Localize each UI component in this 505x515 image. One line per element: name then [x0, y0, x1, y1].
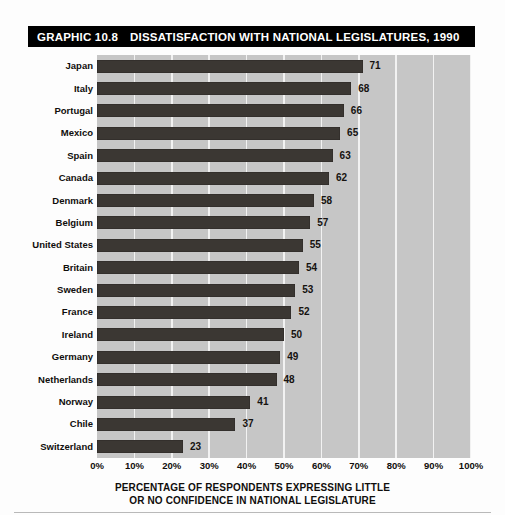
bar-japan [97, 60, 363, 73]
plot-wrapper: 716866656362585755545352504948413723 [97, 55, 471, 458]
bar-value-label: 49 [287, 352, 298, 362]
bar-portugal [97, 104, 344, 117]
chart-caption: PERCENTAGE OF RESPONDENTS EXPRESSING LIT… [0, 481, 505, 507]
bar-row [97, 104, 471, 117]
bar-canada [97, 172, 329, 185]
bar-united-states [97, 239, 303, 252]
category-label-switzerland: Switzerland [0, 442, 93, 452]
bar-value-label: 55 [310, 240, 321, 250]
x-tick-label: 80% [387, 461, 406, 471]
bar-value-label: 53 [302, 285, 313, 295]
chart-figure: GRAPHIC 10.8 DISSATISFACTION WITH NATION… [0, 0, 505, 515]
bar-row [97, 261, 471, 274]
bar-row [97, 194, 471, 207]
category-label-mexico: Mexico [0, 128, 93, 138]
bar-sweden [97, 284, 295, 297]
category-label-united-states: United States [0, 240, 93, 250]
graphic-number: GRAPHIC 10.8 [37, 31, 118, 43]
bar-row [97, 440, 471, 453]
category-label-sweden: Sweden [0, 285, 93, 295]
x-tick-label: 20% [162, 461, 181, 471]
bar-spain [97, 149, 333, 162]
caption-line-2: OR NO CONFIDENCE IN NATIONAL LEGISLATURE [0, 494, 505, 507]
bar-row [97, 284, 471, 297]
category-label-netherlands: Netherlands [0, 375, 93, 385]
bar-value-label: 65 [347, 128, 358, 138]
bar-row [97, 239, 471, 252]
bar-germany [97, 351, 280, 364]
bar-row [97, 328, 471, 341]
x-tick-label: 100% [459, 461, 483, 471]
bottom-rule [14, 512, 491, 513]
bar-row [97, 216, 471, 229]
category-label-italy: Italy [0, 84, 93, 94]
bar-value-label: 63 [340, 151, 351, 161]
category-label-norway: Norway [0, 397, 93, 407]
x-tick-label: 60% [312, 461, 331, 471]
bar-row [97, 418, 471, 431]
bar-ireland [97, 328, 284, 341]
bar-value-label: 48 [284, 375, 295, 385]
bar-value-label: 37 [242, 419, 253, 429]
bar-value-label: 71 [370, 61, 381, 71]
bar-value-label: 66 [351, 106, 362, 116]
bar-belgium [97, 216, 310, 229]
bar-mexico [97, 127, 340, 140]
bar-value-label: 23 [190, 442, 201, 452]
bar-value-label: 50 [291, 330, 302, 340]
bar-value-label: 68 [358, 84, 369, 94]
x-tick-label: 50% [274, 461, 293, 471]
x-tick-label: 30% [200, 461, 219, 471]
caption-line-1: PERCENTAGE OF RESPONDENTS EXPRESSING LIT… [0, 481, 505, 494]
category-label-britain: Britain [0, 263, 93, 273]
plot-area [97, 55, 471, 458]
bar-chile [97, 418, 235, 431]
category-label-france: France [0, 307, 93, 317]
category-label-japan: Japan [0, 61, 93, 71]
category-label-belgium: Belgium [0, 218, 93, 228]
x-axis-ticks: 0%10%20%30%40%50%60%70%80%90%100% [97, 461, 471, 475]
category-label-germany: Germany [0, 352, 93, 362]
category-axis-labels: JapanItalyPortugalMexicoSpainCanadaDenma… [0, 55, 93, 458]
category-label-canada: Canada [0, 173, 93, 183]
bar-row [97, 127, 471, 140]
x-tick-label: 10% [125, 461, 144, 471]
bar-switzerland [97, 440, 183, 453]
bar-norway [97, 396, 250, 409]
bar-row [97, 351, 471, 364]
bar-row [97, 82, 471, 95]
category-label-chile: Chile [0, 419, 93, 429]
x-tick-label: 0% [90, 461, 104, 471]
bar-row [97, 396, 471, 409]
page-title: DISSATISFACTION WITH NATIONAL LEGISLATUR… [130, 31, 460, 43]
bar-value-label: 52 [298, 307, 309, 317]
bar-netherlands [97, 373, 277, 386]
bar-value-label: 62 [336, 173, 347, 183]
x-tick-label: 70% [349, 461, 368, 471]
bar-britain [97, 261, 299, 274]
category-label-ireland: Ireland [0, 330, 93, 340]
bar-row [97, 172, 471, 185]
bar-value-label: 57 [317, 218, 328, 228]
x-tick-label: 40% [237, 461, 256, 471]
category-label-portugal: Portugal [0, 106, 93, 116]
bars-layer [97, 55, 471, 458]
bar-value-label: 41 [257, 397, 268, 407]
bar-italy [97, 82, 351, 95]
bar-france [97, 306, 291, 319]
x-tick-label: 90% [424, 461, 443, 471]
chart-title-bar: GRAPHIC 10.8 DISSATISFACTION WITH NATION… [28, 26, 475, 47]
bar-row [97, 306, 471, 319]
category-label-spain: Spain [0, 151, 93, 161]
bar-row [97, 149, 471, 162]
category-label-denmark: Denmark [0, 196, 93, 206]
bar-value-label: 54 [306, 263, 317, 273]
bar-row [97, 60, 471, 73]
bar-denmark [97, 194, 314, 207]
bar-value-label: 58 [321, 196, 332, 206]
